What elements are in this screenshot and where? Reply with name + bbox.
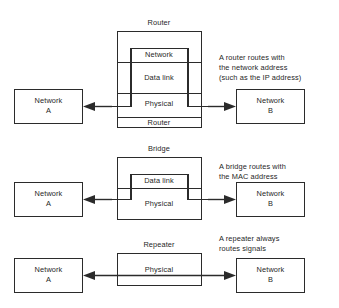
repeater-right-node-label-line2: B [236,275,305,284]
bridge-layer-datalink: Data link [117,176,201,185]
bridge-left-node-label-line1: Network [14,189,83,198]
repeater-right-node-label-line1: Network [236,265,305,274]
router-note: A router routes with the network address… [219,53,339,84]
repeater-note: A repeater always routes signals [219,234,339,254]
bridge-title: Bridge [117,144,201,153]
router-title: Router [117,18,201,27]
bridge-right-node-label-line1: Network [236,189,305,198]
bridge-layer-physical: Physical [117,199,201,208]
repeater-left-node-label-line2: A [14,275,83,284]
bridge-right-node-label-line2: B [236,199,305,208]
router-layer-physical: Physical [117,99,201,108]
repeater-title: Repeater [117,240,201,249]
network-device-diagram: Router Network Data link Physical Router… [0,0,339,308]
repeater-left-node-label-line1: Network [14,265,83,274]
router-footer-label: Router [117,118,201,127]
router-right-node-label-line1: Network [236,96,305,105]
router-left-node-label-line2: A [14,106,83,115]
bridge-note: A bridge routes with the MAC address [219,162,339,182]
router-layer-network: Network [117,50,201,59]
diagram-vector-layer [0,0,339,308]
router-layer-datalink: Data link [117,73,201,82]
repeater-layer-physical: Physical [117,265,201,274]
router-right-node-label-line2: B [236,106,305,115]
bridge-left-node-label-line2: A [14,199,83,208]
router-left-node-label-line1: Network [14,96,83,105]
